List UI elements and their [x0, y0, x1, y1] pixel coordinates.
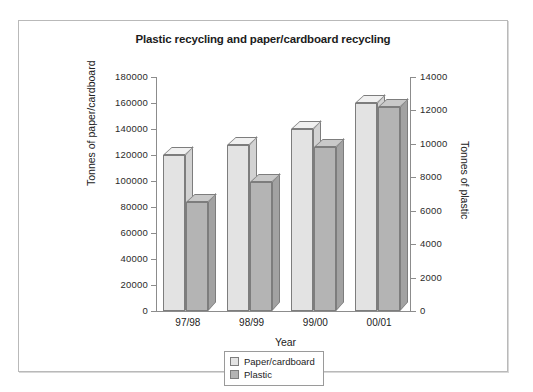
right-axis-tick-mark [411, 211, 416, 212]
bar-front-face [186, 202, 208, 311]
right-axis-tick-mark [411, 144, 416, 145]
bar-front-face [163, 155, 185, 311]
chart-legend: Paper/cardboard Plastic [224, 351, 324, 386]
bar-front-face [314, 147, 336, 311]
bar-side-face [400, 98, 408, 311]
left-axis-tick-mark [151, 207, 156, 208]
left-axis-tick-label: 100000 [115, 175, 148, 186]
bar-front-face [355, 103, 377, 311]
left-axis-tick-mark [151, 233, 156, 234]
x-axis-category-label: 97/98 [158, 317, 218, 328]
bar-front-face [378, 107, 400, 311]
legend-item-paper: Paper/cardboard [230, 355, 315, 368]
right-axis-tick-label: 0 [420, 305, 425, 316]
right-axis-tick-mark [411, 278, 416, 279]
right-axis-tick-mark [411, 77, 416, 78]
left-axis-tick-mark [151, 181, 156, 182]
left-axis-tick-label: 140000 [115, 123, 148, 134]
legend-swatch-plastic-icon [230, 370, 239, 379]
right-axis-tick-label: 6000 [420, 205, 442, 216]
left-axis-tick-label: 160000 [115, 97, 148, 108]
right-axis-tick-label: 12000 [420, 104, 447, 115]
left-axis-tick-mark [151, 285, 156, 286]
bar-side-face [272, 173, 280, 311]
left-axis-tick-label: 60000 [121, 227, 148, 238]
legend-swatch-paper-icon [230, 357, 239, 366]
left-axis-tick-label: 40000 [121, 253, 148, 264]
right-axis-line [410, 77, 411, 311]
x-axis-category-label: 00/01 [349, 317, 409, 328]
x-axis-category-label: 98/99 [222, 317, 282, 328]
chart-title: Plastic recycling and paper/cardboard re… [19, 33, 507, 45]
right-axis-title: Tonnes of plastic [459, 141, 471, 219]
legend-label-paper: Paper/cardboard [244, 356, 315, 367]
left-axis-title: Tonnes of paper/cardboard [85, 60, 97, 186]
bar-side-face [208, 193, 216, 311]
bar-front-face [291, 129, 313, 311]
left-axis-tick-label: 120000 [115, 149, 148, 160]
bar-paper-cardboard-97-98 [163, 155, 185, 311]
x-axis-category-label: 99/00 [285, 317, 345, 328]
bar-paper-cardboard-99-00 [291, 129, 313, 311]
right-axis-tick-label: 8000 [420, 171, 442, 182]
left-axis-tick-mark [151, 129, 156, 130]
x-axis-line [156, 311, 411, 312]
left-axis-tick-label: 80000 [121, 201, 148, 212]
bar-plastic-00-01 [378, 107, 400, 311]
bar-plastic-99-00 [314, 147, 336, 311]
bar-paper-cardboard-98-99 [227, 145, 249, 311]
bar-plastic-98-99 [250, 182, 272, 311]
left-axis-tick-mark [151, 311, 156, 312]
bar-plastic-97-98 [186, 202, 208, 311]
left-axis-line [156, 77, 157, 311]
bar-side-face [336, 138, 344, 311]
right-axis-tick-mark [411, 177, 416, 178]
bar-front-face [250, 182, 272, 311]
right-axis-tick-mark [411, 110, 416, 111]
right-axis-tick-mark [411, 311, 416, 312]
plot-area: 0200004000060000800001000001200001400001… [156, 77, 411, 311]
right-axis-tick-label: 4000 [420, 238, 442, 249]
left-axis-tick-mark [151, 103, 156, 104]
left-axis-tick-mark [151, 155, 156, 156]
legend-item-plastic: Plastic [230, 368, 315, 381]
scanned-page-frame: Plastic recycling and paper/cardboard re… [18, 20, 508, 372]
bar-front-face [227, 145, 249, 311]
left-axis-tick-mark [151, 259, 156, 260]
right-axis-tick-mark [411, 244, 416, 245]
right-axis-tick-label: 14000 [420, 71, 447, 82]
left-axis-tick-label: 180000 [115, 71, 148, 82]
left-axis-tick-label: 20000 [121, 279, 148, 290]
left-axis-tick-mark [151, 77, 156, 78]
bar-paper-cardboard-00-01 [355, 103, 377, 311]
right-axis-tick-label: 10000 [420, 138, 447, 149]
x-axis-title: Year [19, 336, 533, 348]
left-axis-tick-label: 0 [143, 305, 148, 316]
legend-label-plastic: Plastic [244, 369, 272, 380]
right-axis-tick-label: 2000 [420, 272, 442, 283]
